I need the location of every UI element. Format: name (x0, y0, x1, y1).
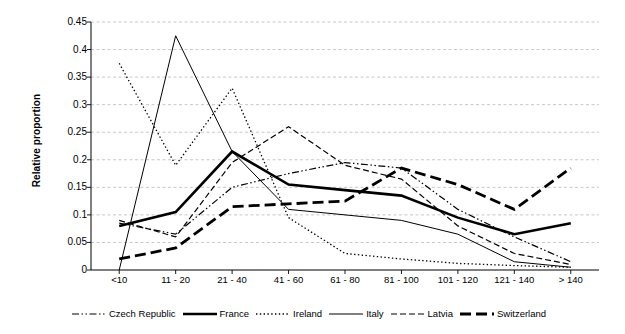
plot-area (91, 22, 599, 270)
legend-label: Czech Republic (109, 308, 176, 320)
y-tick-label: 0.05 (53, 237, 87, 247)
legend-swatch (460, 308, 494, 320)
legend-item-switzerland[interactable]: Switzerland (460, 308, 546, 320)
legend-swatch (391, 308, 425, 320)
series-line-ireland (119, 63, 571, 267)
y-tick-label: 0.2 (53, 155, 87, 165)
series-line-switzerland (119, 168, 571, 259)
chart-legend: Czech RepublicFranceIrelandItalyLatviaSw… (0, 303, 625, 325)
y-tick-label: 0.4 (53, 45, 87, 55)
legend-label: Ireland (293, 308, 322, 320)
legend-swatch (72, 308, 106, 320)
legend-swatch (329, 308, 363, 320)
y-tick-label: 0.15 (53, 182, 87, 192)
series-line-italy (119, 36, 571, 270)
legend-item-latvia[interactable]: Latvia (391, 308, 453, 320)
series-line-latvia (119, 127, 571, 265)
y-tick-label: 0.3 (53, 100, 87, 110)
line-chart: Relative proportion 00.050.10.150.20.250… (0, 0, 625, 334)
legend-item-ireland[interactable]: Ireland (256, 308, 322, 320)
y-tick-label: 0.35 (53, 72, 87, 82)
y-tick-label: 0.45 (53, 17, 87, 27)
legend-item-france[interactable]: France (183, 308, 250, 320)
y-axis-tick-labels: 00.050.10.150.20.250.30.350.40.45 (47, 22, 87, 270)
x-axis-tick-labels: <1011 - 2021 - 4041 - 6061 - 8081 - 1001… (91, 274, 599, 290)
legend-label: Italy (366, 308, 383, 320)
y-axis-title: Relative proportion (31, 61, 42, 221)
y-tick-label: 0.25 (53, 127, 87, 137)
legend-item-italy[interactable]: Italy (329, 308, 383, 320)
legend-swatch (183, 308, 217, 320)
legend-label: France (220, 308, 250, 320)
y-tick-label: 0 (53, 265, 87, 275)
legend-label: Latvia (428, 308, 453, 320)
series-line-czech-republic (119, 163, 571, 262)
x-tick-label: > 140 (536, 274, 606, 286)
plot-svg (91, 22, 599, 270)
legend-swatch (256, 308, 290, 320)
legend-label: Switzerland (497, 308, 546, 320)
y-tick-label: 0.1 (53, 210, 87, 220)
legend-item-czech-republic[interactable]: Czech Republic (72, 308, 176, 320)
